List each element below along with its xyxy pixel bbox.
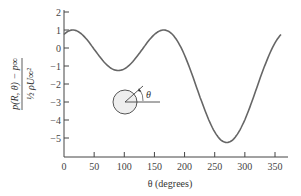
x-axis-label: θ (degrees)	[148, 178, 193, 190]
svg-text:1: 1	[56, 25, 61, 36]
svg-text:150: 150	[147, 161, 162, 172]
svg-text:300: 300	[237, 161, 252, 172]
y-ticks: 210−1−2−3−4−5	[50, 7, 69, 144]
svg-text:−2: −2	[50, 79, 61, 90]
svg-text:−1: −1	[50, 61, 61, 72]
pressure-curve	[64, 30, 281, 143]
cylinder-diagram: θ	[113, 86, 160, 114]
svg-text:250: 250	[207, 161, 222, 172]
svg-text:p(R, θ) − p∞: p(R, θ) − p∞	[9, 58, 21, 111]
svg-text:350: 350	[268, 161, 283, 172]
svg-text:−4: −4	[50, 115, 61, 126]
y-axis-label: p(R, θ) − p∞ ½ ρU∞²	[9, 58, 36, 111]
svg-text:0: 0	[56, 43, 61, 54]
svg-text:−5: −5	[50, 133, 61, 144]
svg-text:100: 100	[117, 161, 132, 172]
svg-text:200: 200	[177, 161, 192, 172]
svg-text:0: 0	[62, 161, 67, 172]
svg-text:2: 2	[56, 7, 61, 18]
chart: p(R, θ) − p∞ ½ ρU∞² 210−1−2−3−4−5 050100…	[0, 0, 301, 196]
svg-text:−3: −3	[50, 97, 61, 108]
theta-label: θ	[146, 89, 151, 100]
svg-text:50: 50	[89, 161, 99, 172]
svg-text:½ ρU∞²: ½ ρU∞²	[25, 67, 36, 100]
x-ticks: 050100150200250300350	[62, 152, 283, 172]
